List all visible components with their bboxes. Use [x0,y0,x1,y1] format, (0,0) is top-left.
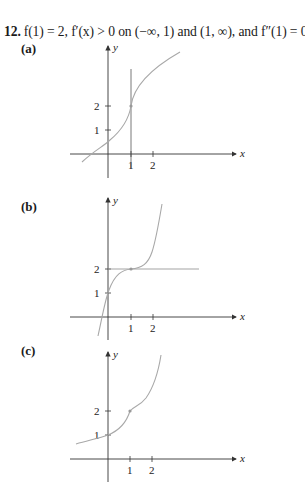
graph-b: 1 2 1 2 y x [0,190,305,340]
curve-c [76,355,161,444]
x-axis-label: x [239,310,245,322]
x-tick-2: 2 [150,159,156,171]
x-axis-label: x [239,147,245,159]
problem-number: 12. [4,24,21,39]
y-tick-2: 2 [94,100,100,112]
x-tick-1: 1 [127,464,133,476]
x-tick-2: 2 [149,464,155,476]
y-axis-label: y [112,348,118,360]
y-axis-label: y [112,41,118,53]
y-tick-2: 2 [94,405,100,417]
y-axis-label: y [112,194,118,206]
graph-c: 1 2 1 2 y x [0,340,305,490]
x-tick-2: 2 [150,322,156,334]
graph-a: 1 2 1 2 y x [0,38,305,178]
y-tick-2: 2 [94,263,100,275]
x-tick-1: 1 [128,322,134,334]
problem-text: f(1) = 2, f′(x) > 0 on (−∞, 1) and (1, ∞… [24,24,305,39]
y-tick-1: 1 [94,124,100,136]
y-tick-1: 1 [94,287,100,299]
x-axis-label: x [239,452,245,464]
